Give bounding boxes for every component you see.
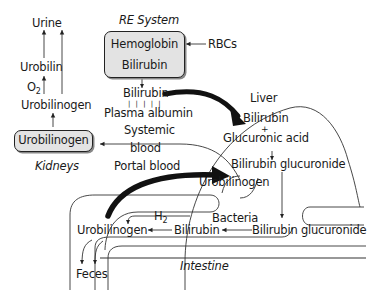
label-hemoglobin: Hemoglobin	[105, 38, 184, 51]
label-feces: Feces	[76, 268, 107, 281]
label-plasma-albumin: Plasma albumin	[104, 107, 193, 120]
label-blood: blood	[130, 142, 161, 155]
label-urine: Urine	[32, 17, 62, 30]
label-urobilinogen-kidney: Urobilinogen	[15, 134, 92, 147]
label-systemic: Systemic	[124, 124, 175, 137]
label-urobilinogen-portal: Urobilinogen	[199, 176, 269, 189]
label-bilirubin-glucuronide-intestine: Bilirubin glucuronide	[252, 224, 367, 237]
label-bilirubin-intestine: Bilirubin	[174, 224, 219, 237]
label-liver: Liver	[250, 92, 277, 105]
label-h2: H2	[154, 210, 167, 227]
label-re-system: RE System	[119, 14, 179, 27]
label-bilirubin-re: Bilirubin	[105, 59, 184, 72]
label-glucuronic-acid: Glucuronic acid	[223, 132, 309, 145]
label-urobilinogen-upper: Urobilinogen	[21, 99, 91, 112]
label-o2: O2	[27, 81, 41, 98]
label-urobilinogen-intestine: Urobilinogen	[77, 224, 147, 237]
label-bilirubin-glucuronide-liver: Bilirubin glucuronide	[231, 158, 346, 171]
label-intestine: Intestine	[180, 260, 229, 273]
re-system-box: Hemoglobin Bilirubin	[104, 31, 185, 78]
label-urobilin: Urobilin	[20, 61, 63, 74]
label-rbcs: RBCs	[208, 38, 237, 51]
label-portal-blood: Portal blood	[114, 160, 180, 173]
label-kidneys: Kidneys	[35, 160, 79, 173]
urobilinogen-kidney-box: Urobilinogen	[14, 130, 93, 152]
